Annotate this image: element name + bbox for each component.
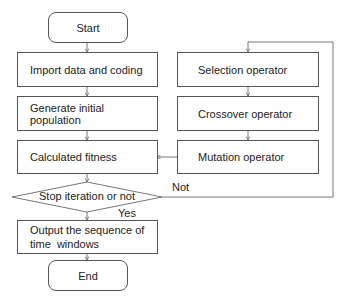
crossover-operator-node: Crossover operator — [177, 96, 319, 131]
generate-population-label: Generate initial population — [30, 102, 157, 126]
output-node: Output the sequence of time windows — [17, 220, 158, 254]
calculated-fitness-node: Calculated fitness — [17, 140, 158, 174]
crossover-operator-label: Crossover operator — [198, 108, 292, 120]
yes-label: Yes — [118, 207, 136, 219]
import-data-node: Import data and coding — [17, 52, 158, 87]
calculated-fitness-label: Calculated fitness — [30, 151, 117, 163]
mutation-operator-label: Mutation operator — [198, 151, 284, 163]
output-label-line1: Output the sequence of — [30, 223, 144, 237]
no-label: Not — [172, 181, 189, 193]
start-label: Start — [76, 22, 99, 34]
end-node: End — [48, 260, 128, 291]
import-data-label: Import data and coding — [30, 64, 143, 76]
end-label: End — [78, 270, 98, 282]
start-node: Start — [48, 12, 128, 43]
decision-label: Stop iteration or not — [12, 190, 162, 202]
mutation-operator-node: Mutation operator — [177, 140, 319, 174]
generate-population-node: Generate initial population — [17, 96, 158, 131]
output-label-line2: time windows — [30, 237, 99, 251]
selection-operator-node: Selection operator — [177, 52, 319, 87]
selection-operator-label: Selection operator — [198, 64, 287, 76]
